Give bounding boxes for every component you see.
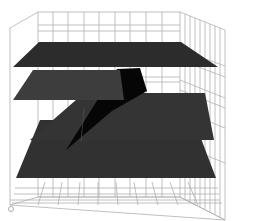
- planes: [13, 42, 218, 178]
- 3d-scene-canvas[interactable]: [0, 0, 262, 221]
- top-plane[interactable]: [13, 42, 218, 67]
- orientation-marker-icon[interactable]: [9, 207, 14, 212]
- second-plane[interactable]: [13, 70, 124, 100]
